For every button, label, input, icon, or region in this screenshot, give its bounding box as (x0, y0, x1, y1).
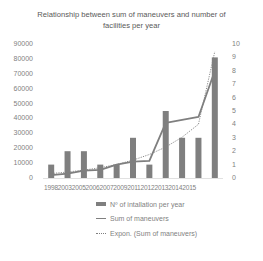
legend-label-line: Sum of maneuvers (110, 215, 169, 222)
bar (163, 111, 169, 178)
legend: Nº of intallation per year Sum of maneuv… (96, 197, 197, 241)
legend-item-bars: Nº of intallation per year (96, 197, 197, 212)
legend-label-trend: Expon. (Sum of maneuvers) (110, 230, 197, 237)
bar (195, 138, 201, 178)
bar (81, 151, 87, 178)
bar (48, 165, 54, 178)
dotted-line-swatch-icon (96, 233, 106, 234)
bar (130, 138, 136, 178)
bar (146, 165, 152, 178)
bar (179, 138, 185, 178)
bar-swatch-icon (96, 202, 106, 206)
legend-item-line: Sum of maneuvers (96, 212, 197, 227)
legend-item-trend: Expon. (Sum of maneuvers) (96, 226, 197, 241)
bar (97, 165, 103, 178)
legend-label-bars: Nº of intallation per year (110, 201, 185, 208)
bar (114, 165, 120, 178)
line-swatch-icon (96, 218, 106, 219)
x-axis-labels: 1998200320052006200720092011201220132014… (44, 184, 196, 191)
